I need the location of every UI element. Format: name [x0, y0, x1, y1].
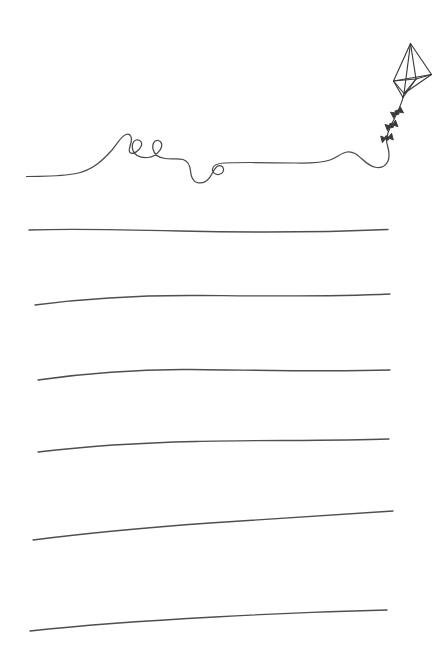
writing-zone-6[interactable] [28, 552, 390, 626]
writing-zone-3[interactable] [28, 318, 390, 376]
writing-zone-4[interactable] [28, 392, 390, 448]
writing-zone-5[interactable] [28, 464, 390, 536]
writing-zones [28, 186, 390, 626]
writing-zone-1[interactable] [28, 186, 390, 230]
kite-paper-canvas [0, 0, 440, 654]
writing-paper-page [0, 0, 440, 654]
writing-zone-2[interactable] [28, 246, 390, 302]
bow-knot [385, 136, 389, 141]
